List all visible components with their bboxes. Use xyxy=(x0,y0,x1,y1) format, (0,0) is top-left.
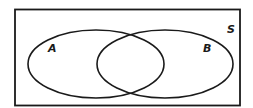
set-a-ellipse xyxy=(28,30,164,98)
universal-set-label: S xyxy=(227,23,235,36)
set-b-label: B xyxy=(203,42,211,55)
set-b-ellipse xyxy=(97,30,233,98)
venn-diagram: A B S xyxy=(0,0,253,108)
set-a-label: A xyxy=(47,42,57,55)
